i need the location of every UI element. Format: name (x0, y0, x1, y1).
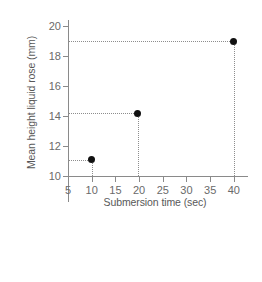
x-tick (186, 177, 187, 182)
x-tick-label: 10 (86, 184, 98, 196)
y-tick-label: 14 (49, 110, 61, 122)
y-tick (63, 26, 68, 27)
x-tick-label: 20 (133, 184, 145, 196)
x-tick-label: 30 (180, 184, 192, 196)
y-tick (63, 86, 68, 87)
x-tick (139, 177, 140, 182)
plot-area: 101214161820 510152025303540 (68, 26, 241, 176)
x-axis-label: Submersion time (sec) (55, 196, 255, 208)
x-tick-label: 40 (228, 184, 240, 196)
x-tick (210, 177, 211, 182)
x-tick-label: 35 (204, 184, 216, 196)
y-tick (63, 116, 68, 117)
x-tick (163, 177, 164, 182)
x-tick-label: 5 (65, 184, 71, 196)
vertical-guide-line (234, 41, 235, 176)
x-tick (68, 177, 69, 182)
y-axis-line (68, 20, 69, 202)
x-tick (234, 177, 235, 182)
y-tick (63, 56, 68, 57)
x-tick (92, 177, 93, 182)
horizontal-guide-line (68, 113, 138, 114)
data-point (88, 156, 95, 163)
x-tick-label: 25 (157, 184, 169, 196)
y-tick-label: 16 (49, 80, 61, 92)
x-tick (115, 177, 116, 182)
vertical-guide-line (138, 113, 139, 176)
data-point (230, 38, 237, 45)
y-tick-label: 18 (49, 50, 61, 62)
x-axis-line (68, 176, 248, 177)
y-axis-label: Mean height liquid rose (mm) (22, 15, 40, 190)
y-tick-label: 20 (49, 20, 61, 32)
y-tick-label: 10 (49, 170, 61, 182)
y-tick-label: 12 (49, 140, 61, 152)
figure: Mean height liquid rose (mm) Submersion … (0, 0, 262, 282)
x-tick-label: 15 (109, 184, 121, 196)
horizontal-guide-line (68, 41, 234, 42)
y-tick (63, 146, 68, 147)
data-point (134, 110, 141, 117)
